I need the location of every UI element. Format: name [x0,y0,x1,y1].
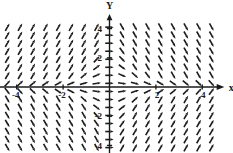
field-arrow-shaft [158,23,161,27]
field-arrow-shaft [133,48,136,52]
field-arrow-shaft [158,131,161,135]
field-arrow-shaft [82,144,85,148]
field-arrow-shaft [158,40,161,44]
field-arrow-shaft [209,48,212,52]
field-arrow-shaft [69,112,72,116]
field-arrow-shaft [132,73,136,76]
field-arrow-shaft [209,91,212,95]
field-arrow-head [135,90,139,92]
field-arrow-shaft [18,75,21,79]
field-arrow-shaft [120,40,123,44]
field-arrow-shaft [44,112,47,116]
field-arrow-shaft [146,147,149,151]
field-arrow-shaft [80,83,85,84]
field-arrow-shaft [145,72,148,76]
field-arrow-shaft [197,131,200,135]
field-arrow-shaft [31,144,34,148]
field-arrow-shaft [133,107,136,111]
field-arrow-shaft [18,67,21,71]
field-arrow-shaft [5,67,8,71]
field-arrow-shaft [120,48,123,52]
field-arrow-shaft [197,139,200,143]
field-arrow-shaft [184,139,187,143]
field-arrow-shaft [197,107,200,111]
field-arrow-shaft [197,123,200,127]
field-arrow-shaft [69,104,72,108]
field-arrow-shaft [120,123,123,127]
field-arrow-head [110,98,113,101]
field-arrow-shaft [93,98,98,100]
field-arrow-shaft [44,59,47,63]
field-arrow-shaft [42,83,46,86]
field-arrow-shaft [56,75,59,79]
field-arrow-head [110,130,113,133]
field-arrow-shaft [119,65,123,68]
field-arrow-shaft [146,56,149,60]
field-arrow-shaft [158,115,161,119]
field-arrow-shaft [171,123,174,127]
field-arrow-shaft [95,128,98,132]
field-arrow-shaft [158,107,161,111]
field-arrow-shaft [69,42,72,46]
field-arrow-shaft [44,120,47,124]
field-arrow-shaft [67,89,72,91]
field-arrow-head [110,138,113,141]
field-arrow-shaft [120,23,123,27]
field-arrow-shaft [69,59,72,63]
field-arrow-shaft [56,34,59,38]
field-arrow-shaft [118,91,123,92]
field-arrow-shaft [69,96,72,100]
field-arrow-shaft [133,131,136,135]
field-arrow-shaft [5,136,8,140]
field-arrow-shaft [171,131,174,135]
field-arrow-shaft [119,107,123,110]
field-arrow-shaft [158,31,161,35]
x-axis-tick-label: -4 [12,90,20,100]
field-arrow-shaft [209,99,212,103]
field-arrow-shaft [82,50,85,54]
field-arrow-shaft [184,64,187,68]
field-arrow-shaft [144,91,149,93]
field-arrow-shaft [18,104,21,108]
field-arrow-shaft [197,147,200,151]
field-arrow-shaft [18,26,21,30]
field-arrow-shaft [56,128,59,132]
field-arrow-shaft [158,64,161,68]
field-arrow-shaft [184,31,187,35]
field-arrow-shaft [93,105,97,108]
field-arrow-shaft [56,112,59,116]
field-arrow-shaft [133,40,136,44]
field-arrow-shaft [95,42,98,46]
field-arrow-shaft [18,50,21,54]
field-arrow-shaft [171,115,174,119]
field-arrow-shaft [120,31,123,35]
field-arrow-shaft [55,83,59,85]
field-arrow-shaft [184,48,187,52]
field-arrow-shaft [82,104,85,108]
field-arrow-head [97,90,101,92]
field-arrow-shaft [146,23,149,27]
field-arrow-shaft [5,88,8,92]
field-arrow-shaft [118,83,123,84]
field-arrow-shaft [209,80,212,84]
field-arrow-head [110,34,113,37]
field-arrow-shaft [18,34,21,38]
field-arrow-shaft [42,89,46,92]
field-arrow-shaft [171,72,174,76]
x-axis-label: x [229,82,233,93]
field-arrow-shaft [209,64,212,68]
field-arrow-shaft [17,83,21,87]
field-arrow-shaft [146,40,149,44]
field-arrow-shaft [197,115,200,119]
field-arrow-shaft [31,120,34,124]
field-arrow-shaft [183,81,187,84]
field-arrow-shaft [93,75,98,77]
field-arrow-head [123,82,127,84]
field-arrow-shaft [146,31,149,35]
field-arrow-shaft [56,136,59,140]
field-arrow-shaft [5,128,8,132]
field-arrow-shaft [146,131,149,135]
field-arrow-shaft [5,104,8,108]
field-arrow-shaft [184,40,187,44]
field-arrow-shaft [170,81,174,84]
